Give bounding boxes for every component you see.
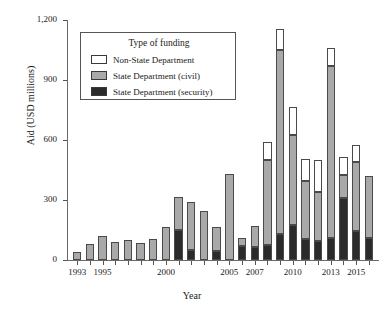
y-axis-line [67, 20, 68, 261]
bar-segment [327, 66, 335, 238]
bar-segment [289, 107, 297, 134]
bar-segment [212, 227, 220, 251]
bar-segment [251, 226, 259, 247]
bar-segment [263, 160, 271, 245]
legend-title: Type of funding [81, 38, 237, 48]
bar-segment [314, 192, 322, 241]
x-tick-mark [166, 261, 167, 265]
bar-segment [289, 135, 297, 225]
x-tick-mark [217, 261, 218, 265]
bar-segment [124, 240, 132, 260]
bar-segment [263, 142, 271, 160]
bar-segment [251, 247, 259, 260]
x-tick-mark [356, 261, 357, 265]
x-tick-label: 2007 [239, 268, 271, 277]
bar-segment [327, 48, 335, 66]
bar-segment [200, 211, 208, 260]
x-tick-mark [229, 261, 230, 265]
x-tick-mark [343, 261, 344, 265]
legend-label-non-state: Non-State Department [113, 55, 194, 65]
bar-segment [352, 231, 360, 260]
x-axis-title: Year [0, 290, 384, 301]
y-tick-label: 0 [23, 255, 57, 264]
x-tick-mark [141, 261, 142, 265]
x-tick-mark [318, 261, 319, 265]
bar-segment [162, 227, 170, 260]
bar-segment [174, 197, 182, 230]
bar-segment [276, 29, 284, 50]
y-tick-label: 300 [23, 195, 57, 204]
bar-segment [149, 239, 157, 260]
bar-segment [98, 236, 106, 260]
legend-swatch-state-security-icon [91, 87, 107, 96]
legend-label-state-civil: State Department (civil) [113, 71, 200, 81]
y-tick-label: 900 [23, 75, 57, 84]
x-tick-mark [128, 261, 129, 265]
x-tick-label: 2000 [150, 268, 182, 277]
x-tick-mark [153, 261, 154, 265]
bar-segment [352, 162, 360, 231]
bar-segment [327, 238, 335, 260]
bar-segment [263, 245, 271, 260]
bar-segment [339, 157, 347, 175]
x-tick-mark [242, 261, 243, 265]
x-tick-mark [305, 261, 306, 265]
x-tick-mark [179, 261, 180, 265]
bar-segment [225, 174, 233, 260]
y-tick-label: 1,200 [23, 15, 57, 24]
legend-label-state-security: State Department (security) [113, 87, 212, 97]
x-tick-mark [331, 261, 332, 265]
x-tick-mark [267, 261, 268, 265]
bar-segment [301, 181, 309, 239]
x-tick-mark [280, 261, 281, 265]
x-tick-mark [369, 261, 370, 265]
bar-segment [73, 252, 81, 260]
bar-segment [276, 50, 284, 234]
bar-segment [339, 175, 347, 197]
legend-swatch-state-civil-icon [91, 71, 107, 80]
legend-swatch-non-state-icon [91, 55, 107, 64]
bar-segment [365, 238, 373, 260]
x-tick-mark [77, 261, 78, 265]
x-tick-mark [191, 261, 192, 265]
bar-segment [289, 225, 297, 260]
bar-segment [339, 198, 347, 260]
y-axis-title: Aid (USD millions) [25, 16, 36, 196]
x-tick-mark [90, 261, 91, 265]
bar-segment [238, 238, 246, 247]
y-tick-label: 600 [23, 135, 57, 144]
x-tick-mark [103, 261, 104, 265]
x-tick-mark [293, 261, 294, 265]
x-tick-label: 1995 [87, 268, 119, 277]
x-tick-mark [204, 261, 205, 265]
bar-segment [136, 243, 144, 260]
bar-segment [365, 176, 373, 238]
bar-segment [174, 230, 182, 260]
bar-segment [187, 250, 195, 260]
legend-item-state-security: State Department (security) [91, 85, 212, 98]
x-tick-mark [255, 261, 256, 265]
bar-segment [238, 246, 246, 260]
bar-segment [111, 242, 119, 260]
x-axis-line [67, 260, 379, 261]
x-tick-label: 2010 [277, 268, 309, 277]
legend-item-non-state: Non-State Department [91, 53, 194, 66]
bar-segment [314, 241, 322, 260]
bar-segment [86, 244, 94, 260]
x-tick-label: 2015 [340, 268, 372, 277]
x-tick-mark [115, 261, 116, 265]
bar-segment [314, 160, 322, 193]
bar-segment [187, 202, 195, 250]
bar-segment [276, 234, 284, 260]
bar-chart: Aid (USD millions) Year 03006009001,200 … [0, 0, 384, 313]
bar-segment [301, 159, 309, 181]
bar-segment [212, 251, 220, 260]
legend-item-state-civil: State Department (civil) [91, 69, 200, 82]
legend: Type of funding Non-State Department Sta… [80, 32, 236, 100]
bar-segment [301, 239, 309, 260]
bar-segment [352, 145, 360, 163]
